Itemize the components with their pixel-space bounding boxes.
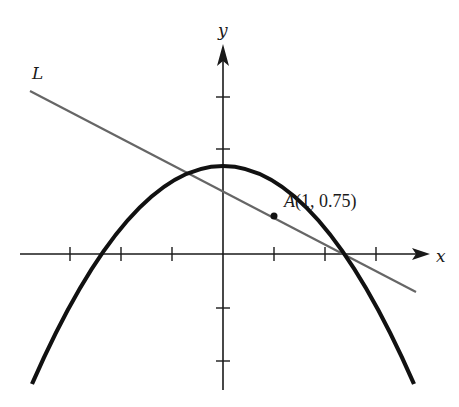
- point-A-marker: [271, 213, 278, 220]
- point-A-coords: (1, 0.75): [295, 191, 357, 212]
- y-axis-label: y: [217, 20, 228, 40]
- tangent-line-diagram: y x L A(1, 0.75): [0, 0, 459, 407]
- line-L-label: L: [31, 63, 43, 83]
- point-A-label: A(1, 0.75): [283, 191, 357, 212]
- x-axis-label: x: [436, 246, 446, 266]
- x-axis: [20, 247, 430, 261]
- y-axis: [216, 44, 230, 390]
